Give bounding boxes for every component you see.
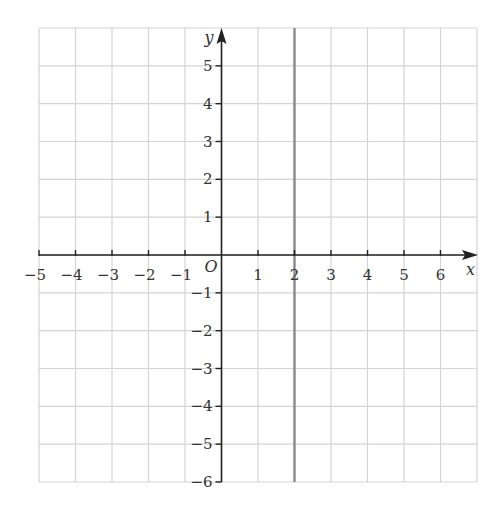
- y-tick-label: 5: [203, 57, 213, 75]
- x-tick-label: 1: [253, 266, 263, 284]
- x-tick-label: −4: [60, 266, 82, 284]
- x-tick-label: −3: [97, 266, 119, 284]
- origin-label: O: [205, 257, 218, 276]
- x-axis-label: x: [466, 260, 475, 279]
- x-tick-label: 6: [436, 266, 446, 284]
- y-tick-label: −2: [190, 322, 212, 340]
- y-tick-label: −3: [190, 360, 212, 378]
- x-tick-label: 4: [363, 266, 373, 284]
- y-tick-label: 4: [203, 95, 213, 113]
- x-tick-label: −1: [170, 266, 192, 284]
- y-axis-label: y: [204, 28, 215, 47]
- coordinate-grid: −5−4−3−2−112345654321−1−2−3−4−5−6Oxy: [0, 0, 481, 517]
- y-tick-label: 1: [203, 208, 213, 226]
- tick-labels: −5−4−3−2−112345654321−1−2−3−4−5−6Oxy: [24, 28, 475, 491]
- y-tick-label: 2: [203, 170, 213, 188]
- y-tick-label: 3: [203, 133, 213, 151]
- x-tick-label: −2: [133, 266, 155, 284]
- x-tick-label: 2: [290, 266, 300, 284]
- y-tick-label: −1: [190, 284, 212, 302]
- y-tick-label: −6: [190, 473, 212, 491]
- x-tick-label: 5: [399, 266, 409, 284]
- y-tick-label: −4: [190, 397, 212, 415]
- x-tick-label: −5: [24, 266, 46, 284]
- x-tick-label: 3: [326, 266, 336, 284]
- y-tick-label: −5: [190, 435, 212, 453]
